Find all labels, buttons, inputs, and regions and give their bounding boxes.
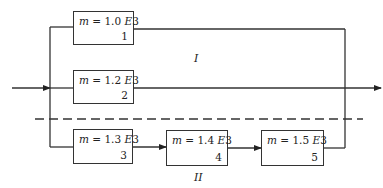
block-1-value: m = 1.0 E3 — [79, 15, 139, 27]
block-2: m = 1.2 E3 2 — [73, 70, 134, 104]
block-5-number: 5 — [311, 151, 318, 163]
group-label-II: II — [194, 171, 203, 184]
group-label-I: I — [194, 52, 198, 65]
block-3-value: m = 1.3 E3 — [79, 133, 139, 145]
block-5-value: m = 1.5 E3 — [267, 134, 327, 146]
block-3-number: 3 — [120, 149, 127, 161]
block-4-number: 4 — [215, 151, 222, 163]
block-4: m = 1.4 E3 4 — [166, 130, 228, 166]
block-1-number: 1 — [121, 30, 128, 42]
block-1: m = 1.0 E3 1 — [73, 11, 134, 45]
block-4-value: m = 1.4 E3 — [172, 134, 232, 146]
block-5: m = 1.5 E3 5 — [261, 130, 324, 166]
block-2-value: m = 1.2 E3 — [79, 74, 139, 86]
block-3: m = 1.3 E3 3 — [73, 129, 133, 164]
block-2-number: 2 — [121, 89, 128, 101]
